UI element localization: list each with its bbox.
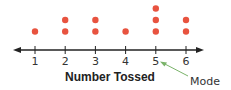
mode-annotation: Mode <box>160 62 220 89</box>
data-dots <box>32 5 189 34</box>
data-dot <box>62 28 68 34</box>
mode-label: Mode <box>190 75 220 88</box>
data-dot <box>32 28 38 34</box>
data-dot <box>183 28 189 34</box>
tick-label-1: 1 <box>32 55 39 68</box>
left-arrow-icon <box>13 47 21 53</box>
tick-label-3: 3 <box>92 55 99 68</box>
tick-label-4: 4 <box>122 55 129 68</box>
data-dot <box>62 17 68 23</box>
dot-plot: 123456 Number Tossed Mode <box>0 0 231 90</box>
mode-arrow-icon <box>160 62 167 67</box>
data-dot <box>122 28 128 34</box>
data-dot <box>183 17 189 23</box>
data-dot <box>153 28 159 34</box>
number-line-axis: 123456 <box>13 46 204 68</box>
data-dot <box>92 28 98 34</box>
tick-label-5: 5 <box>152 55 159 68</box>
data-dot <box>153 5 159 11</box>
data-dot <box>153 17 159 23</box>
right-arrow-icon <box>196 47 204 53</box>
tick-label-2: 2 <box>62 55 69 68</box>
x-axis-title: Number Tossed <box>65 70 155 84</box>
data-dot <box>92 17 98 23</box>
tick-label-6: 6 <box>183 55 190 68</box>
